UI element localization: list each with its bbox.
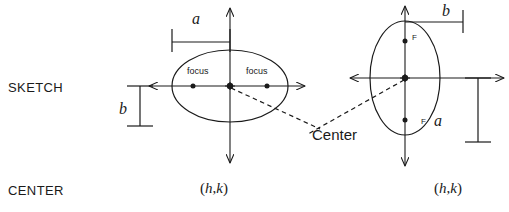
left-focus-left-point bbox=[191, 84, 196, 89]
left-center-h: h bbox=[205, 180, 213, 196]
left-focus-right-point bbox=[265, 84, 270, 89]
right-center-h: h bbox=[439, 180, 447, 196]
left-center-k: k bbox=[216, 180, 223, 196]
left-center-leader-line bbox=[231, 88, 320, 129]
right-center-close-paren: ) bbox=[457, 180, 462, 196]
right-semi-minor-bracket bbox=[405, 10, 463, 33]
right-focus-lower-label: F bbox=[421, 117, 426, 126]
left-center-close-paren: ) bbox=[223, 180, 228, 196]
right-center-coordinates: (h,k) bbox=[434, 180, 462, 197]
right-center-k: k bbox=[450, 180, 457, 196]
row-label-sketch: SKETCH bbox=[8, 80, 63, 95]
left-semi-minor-label: b bbox=[119, 100, 127, 118]
left-semi-minor-bracket bbox=[127, 86, 153, 126]
row-label-center: CENTER bbox=[8, 183, 64, 198]
right-focus-upper-label: F bbox=[412, 33, 417, 42]
right-semi-major-label: a bbox=[434, 112, 442, 130]
left-semi-major-label: a bbox=[192, 10, 200, 28]
ellipse-diagram-canvas bbox=[0, 0, 509, 212]
right-semi-major-bracket bbox=[465, 78, 491, 142]
left-focus-left-label: focus bbox=[187, 66, 209, 76]
center-callout-label: Center bbox=[312, 126, 357, 143]
left-ellipse-group bbox=[127, 8, 320, 163]
right-focus-lower-point bbox=[403, 118, 408, 123]
right-semi-minor-label: b bbox=[442, 2, 450, 20]
right-focus-upper-point bbox=[403, 39, 408, 44]
left-semi-major-bracket bbox=[172, 29, 230, 52]
left-center-coordinates: (h,k) bbox=[200, 180, 228, 197]
left-focus-right-label: focus bbox=[246, 66, 268, 76]
